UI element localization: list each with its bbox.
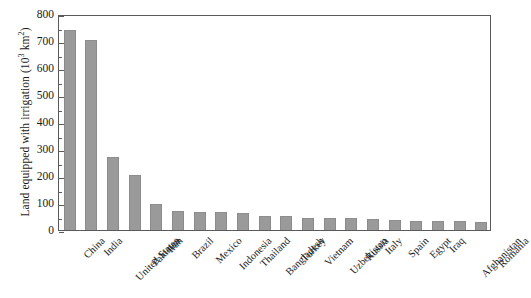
bar xyxy=(194,212,206,230)
y-axis-tick-label: 0 xyxy=(24,225,54,237)
bar xyxy=(85,40,97,230)
bar-series xyxy=(59,16,490,230)
bar xyxy=(129,175,141,230)
bar xyxy=(215,212,227,230)
bar xyxy=(454,221,466,230)
bar xyxy=(150,204,162,230)
x-axis-tick-label: Vietnam xyxy=(322,235,355,268)
bar xyxy=(172,211,184,230)
y-axis-tick-label: 500 xyxy=(24,90,54,102)
x-axis-tick-label: Brazil xyxy=(190,235,216,261)
y-axis-tick-label: 100 xyxy=(24,198,54,210)
bar xyxy=(367,219,379,230)
y-axis-tick-label: 800 xyxy=(24,9,54,21)
y-axis-tick-label: 300 xyxy=(24,144,54,156)
bar xyxy=(64,30,76,230)
y-axis-tick-label: 200 xyxy=(24,171,54,183)
plot-area xyxy=(58,15,491,231)
bar xyxy=(389,220,401,230)
y-axis-tick-label: 700 xyxy=(24,36,54,48)
bar xyxy=(280,216,292,230)
x-axis-tick-labels: ChinaIndiaUnited StatesPakistanIranBrazi… xyxy=(58,233,491,298)
bar xyxy=(259,216,271,230)
bar xyxy=(237,213,249,230)
bar xyxy=(475,222,487,230)
y-axis-tick-label: 400 xyxy=(24,117,54,129)
y-axis-tick-label: 600 xyxy=(24,63,54,75)
x-axis-tick-label: Spain xyxy=(406,235,431,260)
bar xyxy=(302,218,314,230)
bar xyxy=(324,218,336,230)
bar xyxy=(345,218,357,230)
bar xyxy=(107,157,119,230)
bar xyxy=(432,221,444,230)
bar xyxy=(410,221,422,230)
x-axis-tick-label: Iraq xyxy=(447,235,467,255)
y-axis-tick-labels: 0100200300400500600700800 xyxy=(24,15,54,231)
x-axis-tick-label: India xyxy=(102,235,125,258)
